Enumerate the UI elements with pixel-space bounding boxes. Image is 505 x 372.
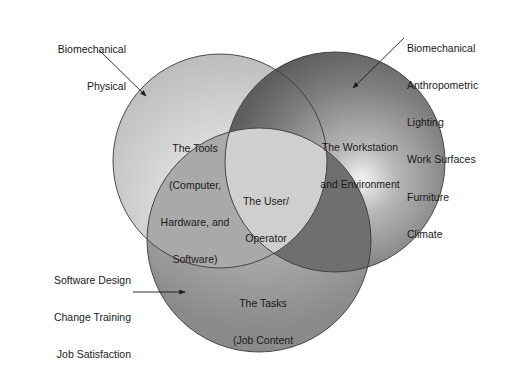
tasks-annotation: Software Design Change Training Job Sati… (6, 249, 131, 372)
label-line: Operator (226, 232, 306, 244)
center-label: The User/ Operator (226, 170, 306, 257)
annotation-line: Lighting (407, 116, 505, 128)
annotation-line: Software Design (6, 274, 131, 286)
annotation-line: Anthropometric (407, 79, 505, 91)
annotation-line: Work Surfaces (407, 153, 505, 165)
annotation-line: Biomechanical (30, 43, 126, 55)
label-line: The Tools (140, 142, 250, 154)
annotation-line: Change Training (6, 311, 131, 323)
label-line: The User/ (226, 195, 306, 207)
annotation-line: Furniture (407, 191, 505, 203)
annotation-line: Biomechanical (407, 42, 505, 54)
workstation-annotation: Biomechanical Anthropometric Lighting Wo… (407, 17, 505, 253)
label-line: and Environment (300, 178, 420, 190)
tasks-label: The Tasks (Job Content and Context) (213, 272, 313, 372)
label-line: The Workstation (300, 141, 420, 153)
label-line: (Job Content (213, 334, 313, 346)
label-line: The Tasks (213, 297, 313, 309)
tools-annotation: Biomechanical Physical (30, 18, 126, 105)
annotation-line: Physical (30, 80, 126, 92)
workstation-label: The Workstation and Environment (300, 116, 420, 203)
annotation-line: Job Satisfaction (6, 348, 131, 360)
annotation-line: Climate (407, 228, 505, 240)
